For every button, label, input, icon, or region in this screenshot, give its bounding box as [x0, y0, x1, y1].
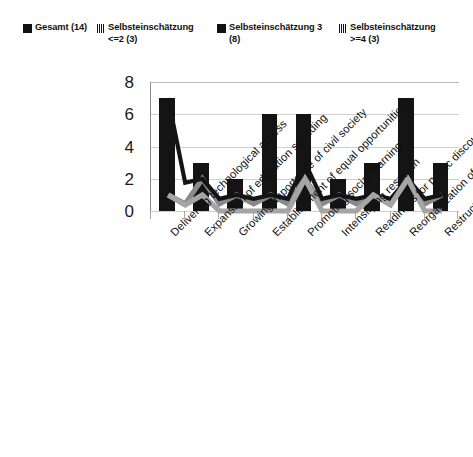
x-axis-tick: [150, 211, 151, 219]
legend-swatch-solid-icon: [23, 24, 32, 33]
legend-item: Selbsteinschätzung >=4 (3): [338, 22, 450, 45]
legend-swatch-hatched-icon: [96, 24, 105, 33]
legend-item: Selbsteinschätzung 3 (8): [217, 22, 329, 45]
x-axis-labels: Delivering technological accessExpansion…: [0, 228, 473, 408]
legend-item-label: Selbsteinschätzung 3 (8): [229, 22, 329, 45]
y-axis: 86420: [104, 82, 140, 211]
y-axis-tick-label: 4: [125, 138, 134, 155]
legend-item: Selbsteinschätzung <=2 (3): [96, 22, 208, 45]
y-axis-tick-label: 6: [125, 106, 134, 123]
y-axis-tick-label: 2: [125, 170, 134, 187]
y-axis-tick-label: 8: [125, 74, 134, 91]
y-axis-tick-label: 0: [125, 203, 134, 220]
legend-swatch-solid-icon: [217, 24, 226, 33]
chart-legend: Gesamt (14) Selbsteinschätzung <=2 (3) S…: [0, 22, 473, 45]
legend-item-label: Selbsteinschätzung <=2 (3): [108, 22, 208, 45]
legend-swatch-hatched-icon: [338, 24, 347, 33]
legend-item: Gesamt (14): [23, 22, 87, 34]
legend-item-label: Selbsteinschätzung >=4 (3): [350, 22, 450, 45]
legend-item-label: Gesamt (14): [35, 22, 87, 34]
